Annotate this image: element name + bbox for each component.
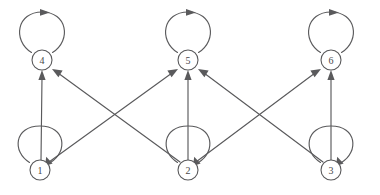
arrowhead-3-to-6 — [327, 70, 334, 80]
node-4[interactable]: 4 — [32, 50, 52, 70]
arrowhead-2-to-5 — [184, 70, 191, 80]
edge-2-to-4 — [52, 69, 180, 162]
arrowhead-loop-4 — [40, 9, 50, 16]
graph-canvas: 4 5 6 1 2 3 — [0, 0, 380, 195]
arrowhead-2-to-4 — [52, 69, 63, 77]
self-loop-node-4 — [20, 9, 65, 53]
arrowhead-2-to-6 — [310, 69, 321, 77]
node-5-label: 5 — [186, 55, 191, 66]
edge-2-to-6 — [196, 69, 321, 162]
edge-3-to-6 — [327, 70, 334, 160]
node-5[interactable]: 5 — [178, 50, 198, 70]
arrowhead-3-to-5 — [198, 69, 209, 77]
node-3[interactable]: 3 — [321, 160, 341, 180]
node-2-label: 2 — [186, 165, 191, 176]
node-3-label: 3 — [329, 165, 334, 176]
self-loop-node-6 — [309, 9, 354, 53]
node-6-label: 6 — [329, 55, 334, 66]
node-6[interactable]: 6 — [321, 50, 341, 70]
edge-1-to-4 — [38, 70, 45, 160]
node-1-label: 1 — [38, 165, 43, 176]
arrowhead-loop-5 — [186, 9, 196, 16]
node-1[interactable]: 1 — [30, 160, 50, 180]
arrowhead-loop-6 — [329, 9, 339, 16]
node-4-label: 4 — [40, 55, 45, 66]
arrowhead-1-to-4 — [38, 70, 45, 80]
node-2[interactable]: 2 — [178, 160, 198, 180]
graph-diagram: 4 5 6 1 2 3 — [0, 0, 380, 195]
arrowhead-1-to-5 — [167, 69, 178, 77]
edge-3-to-5 — [198, 69, 323, 162]
edge-1-to-5 — [49, 69, 178, 162]
edge-2-to-5 — [184, 70, 191, 160]
self-loop-node-5 — [166, 9, 211, 53]
